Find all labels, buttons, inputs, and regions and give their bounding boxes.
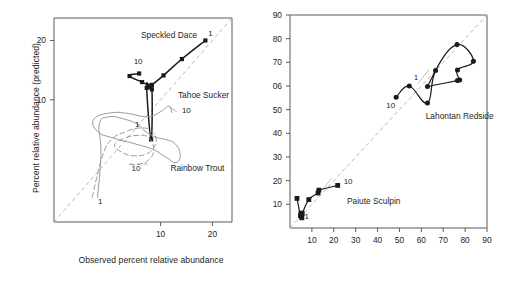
left-data-group <box>92 38 207 197</box>
left-y-axis-title: Percent relative abundance (predicted) <box>31 18 41 218</box>
data-point-marker <box>127 74 131 78</box>
right-panel-plot: 102030405060708090102030405006708090Laho… <box>256 0 512 284</box>
point-label-sculpin-10: 10 <box>344 177 353 186</box>
data-point-marker <box>471 59 476 64</box>
data-point-marker <box>146 84 150 88</box>
right-y-tick-label: 80 <box>273 34 283 44</box>
left-x-tick-label: 20 <box>208 229 218 239</box>
point-label-trout-1: 1 <box>98 197 103 206</box>
right-x-tick-label: 90 <box>482 235 492 245</box>
data-point-marker <box>316 188 321 193</box>
right-x-tick-label: 50 <box>395 235 405 245</box>
data-point-marker <box>407 84 412 89</box>
right-x-tick-label: 60 <box>417 235 427 245</box>
data-point-marker <box>455 42 460 47</box>
data-point-marker <box>335 183 340 188</box>
data-point-marker <box>306 197 311 202</box>
right-y-tick-label: 90 <box>273 10 283 20</box>
right-y-tick-label: 70 <box>273 57 283 67</box>
right-data-group <box>295 42 476 220</box>
point-label-sucker-10: 10 <box>182 106 191 115</box>
right-x-tick-label: 20 <box>329 235 339 245</box>
label-paiute-sculpin: Paiute Sculpin <box>347 196 401 206</box>
right-y-tick-label: 30 <box>273 152 283 162</box>
right-y-tick-label: 20 <box>273 176 283 186</box>
data-point-marker <box>295 196 300 201</box>
right-y-tick-label: 10 <box>273 199 283 209</box>
data-point-marker <box>455 67 460 72</box>
right-x-tick-label: 40 <box>373 235 383 245</box>
data-point-marker <box>425 101 430 106</box>
leader-line-sculpin <box>324 178 332 187</box>
data-point-marker <box>150 87 154 91</box>
point-label-dace-1: 1 <box>208 29 213 38</box>
label-speckled-dace: Speckled Dace <box>141 30 198 40</box>
right-x-tick-label: 80 <box>460 235 470 245</box>
right-x-tick-label: 30 <box>351 235 361 245</box>
series-line-lahontan-redside <box>396 44 473 103</box>
point-label-sculpin-1: 1 <box>304 212 309 221</box>
point-label-dace-10: 10 <box>134 57 143 66</box>
data-point-marker <box>140 80 144 84</box>
left-x-axis-title: Observed percent relative abundance <box>46 255 256 265</box>
label-rainbow-trout: Rainbow Trout <box>170 163 225 173</box>
right-y-tick-label: 50 <box>273 105 283 115</box>
data-point-marker <box>394 95 399 100</box>
data-point-marker <box>203 38 207 42</box>
right-y-tick-label: 06 <box>273 81 283 91</box>
point-label-trout-10: 10 <box>132 164 141 173</box>
right-y-tick-label: 40 <box>273 128 283 138</box>
label-tahoe-sucker: Tahoe Sucker <box>178 90 229 100</box>
left-panel: 10201020Speckled DaceTahoe SuckerRainbow… <box>0 0 256 284</box>
right-x-tick-label: 70 <box>439 235 449 245</box>
right-panel: 102030405060708090102030405006708090Laho… <box>256 0 512 284</box>
data-point-marker <box>180 57 184 61</box>
point-label-redside-1: 1 <box>414 73 419 82</box>
point-label-sucker-1: 1 <box>135 120 140 129</box>
left-x-tick-label: 10 <box>156 229 166 239</box>
data-point-marker <box>161 73 165 77</box>
leader-line-redside <box>418 69 429 83</box>
data-point-marker <box>455 78 460 83</box>
right-x-tick-label: 10 <box>307 235 317 245</box>
leader-line-sucker <box>169 107 177 112</box>
left-identity-line <box>54 18 232 222</box>
series-line-rainbow-trout <box>92 128 156 198</box>
label-lahontan-redside: Lahontan Redside <box>426 111 494 121</box>
data-point-marker <box>137 71 141 75</box>
point-label-redside-10: 10 <box>386 101 395 110</box>
figure-root: 10201020Speckled DaceTahoe SuckerRainbow… <box>0 0 512 284</box>
